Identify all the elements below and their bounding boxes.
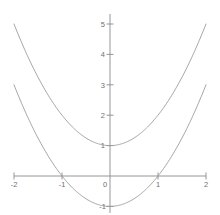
parabola-plot-figure: -2-1012 12345-1 <box>0 0 220 215</box>
axes-group <box>14 14 206 213</box>
y-tick-label: 5 <box>101 20 105 29</box>
x-tick-labels-group: -2-1012 <box>11 180 208 189</box>
x-tick-label: 2 <box>204 180 208 189</box>
y-tick-label: 2 <box>101 111 105 120</box>
x-tick-label: -2 <box>11 180 18 189</box>
y-tick-label-negative: -1 <box>99 202 106 211</box>
x-tick-label: 0 <box>103 180 107 189</box>
y-tick-label: 3 <box>101 81 105 90</box>
y-tick-label: 4 <box>101 50 105 59</box>
x-tick-label: 1 <box>156 180 160 189</box>
y-tick-label: 1 <box>101 141 105 150</box>
x-tick-label: -1 <box>59 180 66 189</box>
plot-canvas: -2-1012 12345-1 <box>0 0 220 215</box>
